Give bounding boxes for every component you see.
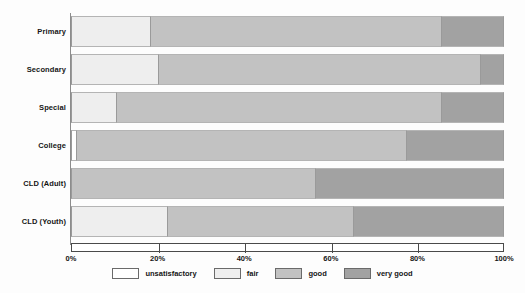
legend-item-verygood[interactable]: very good: [344, 268, 413, 279]
x-axis-tick: [332, 244, 333, 253]
legend-swatch-fair: [214, 268, 241, 279]
bar-segment-good: [159, 54, 480, 85]
category-label-cldyouth: CLD (Youth): [2, 217, 66, 226]
bar-segment-good: [117, 92, 442, 123]
category-label-column: PrimarySecondarySpecialCollegeCLD (Adult…: [0, 14, 66, 244]
category-label-special: Special: [2, 103, 66, 112]
bar-segment-verygood: [442, 16, 504, 47]
bar-row: [71, 92, 504, 123]
bar-segment-verygood: [316, 168, 504, 199]
bar-segment-fair: [71, 92, 117, 123]
bar-row: [71, 130, 504, 161]
x-axis-tick: [245, 244, 246, 253]
bar-row: [71, 16, 504, 47]
category-label-primary: Primary: [2, 27, 66, 36]
plot-area: [71, 14, 504, 244]
legend-item-unsatisfactory[interactable]: unsatisfactory: [112, 268, 196, 279]
legend: unsatisfactoryfairgoodvery good: [0, 268, 525, 279]
legend-label-fair: fair: [247, 269, 259, 278]
x-axis-tick-label: 80%: [410, 254, 425, 263]
bar-segment-good: [77, 130, 407, 161]
x-axis-tick-label: 40%: [237, 254, 252, 263]
bar-segment-fair: [71, 54, 159, 85]
bar-row: [71, 54, 504, 85]
legend-item-fair[interactable]: fair: [214, 268, 259, 279]
bar-row: [71, 206, 504, 237]
x-axis-tick: [159, 244, 160, 253]
category-label-secondary: Secondary: [2, 65, 66, 74]
x-axis-tick: [418, 244, 419, 253]
bar-segment-good: [71, 168, 316, 199]
x-axis-tick-label: 20%: [150, 254, 165, 263]
bar-segment-fair: [71, 16, 151, 47]
legend-item-good[interactable]: good: [275, 268, 326, 279]
legend-swatch-verygood: [344, 268, 371, 279]
legend-swatch-unsatisfactory: [112, 268, 139, 279]
x-axis-tick-label: 100%: [494, 254, 513, 263]
legend-label-good: good: [308, 269, 326, 278]
legend-swatch-good: [275, 268, 302, 279]
stacked-bar-chart: PrimarySecondarySpecialCollegeCLD (Adult…: [0, 0, 525, 293]
category-label-cldadult: CLD (Adult): [2, 179, 66, 188]
bar-row: [71, 168, 504, 199]
value-axis: [71, 243, 504, 252]
category-label-college: College: [2, 141, 66, 150]
x-axis-tick-label: 60%: [323, 254, 338, 263]
legend-label-verygood: very good: [377, 269, 413, 278]
bar-segment-verygood: [407, 130, 504, 161]
x-axis-tick-label: 0%: [66, 254, 77, 263]
bar-segment-fair: [71, 206, 168, 237]
bar-segment-good: [151, 16, 442, 47]
bar-segment-verygood: [481, 54, 504, 85]
bar-segment-verygood: [442, 92, 504, 123]
legend-label-unsatisfactory: unsatisfactory: [145, 269, 196, 278]
bar-segment-good: [168, 206, 354, 237]
bar-segment-verygood: [354, 206, 504, 237]
